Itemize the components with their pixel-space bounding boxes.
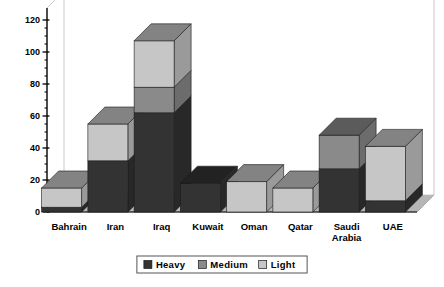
x-axis-tick-label: Arabia [332, 232, 362, 243]
segment-front-face [319, 169, 359, 212]
legend-swatch-medium [198, 261, 206, 269]
legend: HeavyMediumLight [137, 256, 307, 273]
segment-front-face [273, 188, 313, 212]
y-axis-tick-label: 0 [35, 207, 40, 217]
legend-swatch-light [259, 261, 267, 269]
x-axis-tick-label: Saudi [334, 221, 360, 232]
y-axis-tick-label: 120 [25, 15, 40, 25]
segment-front-face [365, 201, 405, 212]
stacked-bar-chart-3d: 020406080100120BahrainIranIraqKuwaitOman… [0, 0, 444, 287]
segment-front-face [134, 113, 174, 212]
x-axis-tick-label: Qatar [288, 221, 313, 232]
segment-front-face [180, 183, 220, 212]
segment-front-face [227, 182, 267, 212]
y-axis-tick-label: 40 [30, 143, 40, 153]
legend-swatch-heavy [144, 261, 152, 269]
legend-label-medium: Medium [210, 259, 248, 270]
segment-front-face [319, 135, 359, 169]
segment-front-face [88, 124, 128, 161]
x-axis-labels: BahrainIranIraqKuwaitOmanQatarSaudiArabi… [51, 221, 402, 243]
segment-front-face [134, 41, 174, 87]
legend-item-medium: Medium [198, 259, 248, 270]
x-axis-tick-label: Iran [107, 221, 125, 232]
legend-item-light: Light [259, 259, 296, 270]
y-axis-tick-label: 60 [30, 111, 40, 121]
segment-front-face [42, 207, 82, 212]
legend-item-heavy: Heavy [144, 259, 186, 270]
segment-front-face [365, 146, 405, 200]
frame-corner-connector [47, 0, 64, 8]
legend-label-light: Light [271, 259, 296, 270]
x-axis-tick-label: Kuwait [192, 221, 224, 232]
y-axis-tick-label: 100 [25, 47, 40, 57]
x-axis-tick-label: Iraq [153, 221, 171, 232]
x-axis-tick-label: Oman [241, 221, 268, 232]
segment-front-face [134, 87, 174, 113]
x-axis-tick-label: Bahrain [51, 221, 87, 232]
x-axis-tick-label: UAE [383, 221, 403, 232]
legend-label-heavy: Heavy [156, 259, 186, 270]
segment-front-face [88, 161, 128, 212]
bar-uae [365, 129, 422, 212]
chart-container: 020406080100120BahrainIranIraqKuwaitOman… [0, 0, 444, 287]
segment-front-face [42, 188, 82, 207]
y-axis-tick-label: 80 [30, 79, 40, 89]
y-axis-tick-label: 20 [30, 175, 40, 185]
